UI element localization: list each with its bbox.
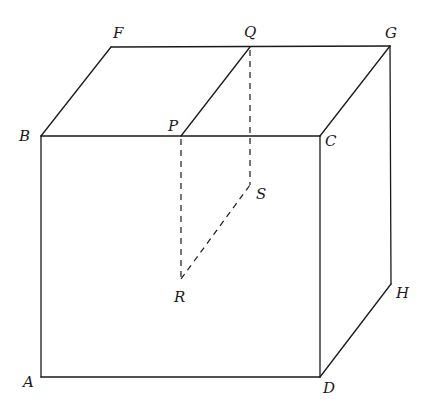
vertex-label-f: F	[112, 24, 124, 42]
edge-hd	[320, 284, 391, 377]
hidden-edge-rs	[181, 185, 250, 279]
edge-gh	[390, 46, 391, 284]
edge-bf	[41, 47, 111, 136]
vertex-label-h: H	[395, 284, 410, 302]
vertex-label-r: R	[173, 288, 185, 306]
edge-gc	[320, 46, 390, 136]
cuboid-diagram: A B C D F G H P Q R S	[0, 0, 430, 403]
vertex-label-p: P	[167, 117, 179, 135]
vertex-label-s: S	[256, 185, 266, 203]
vertex-label-a: A	[21, 373, 34, 391]
vertex-label-d: D	[322, 379, 335, 397]
vertex-label-q: Q	[244, 23, 256, 41]
vertex-label-b: B	[18, 127, 30, 145]
vertex-label-c: C	[325, 132, 337, 150]
edge-pq	[181, 47, 250, 136]
vertex-label-g: G	[385, 24, 397, 42]
